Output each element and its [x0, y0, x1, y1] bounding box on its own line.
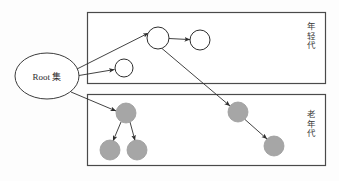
node-old-child-left[interactable] [100, 140, 120, 160]
root-set-label: Root 集 [17, 70, 77, 83]
node-young-right[interactable] [190, 30, 210, 50]
young-generation-label: 年轻代 [305, 22, 314, 51]
old-generation-label: 老年代 [305, 110, 314, 139]
node-young-top[interactable] [147, 27, 169, 49]
diagram-canvas: Root 集 年轻代 老年代 [0, 0, 339, 181]
node-old-child-right[interactable] [127, 140, 147, 160]
diagram-svg [0, 0, 339, 181]
node-old-mid[interactable] [228, 102, 248, 122]
node-old-parent[interactable] [116, 103, 136, 123]
node-young-small[interactable] [115, 59, 133, 77]
node-old-far[interactable] [264, 136, 284, 156]
